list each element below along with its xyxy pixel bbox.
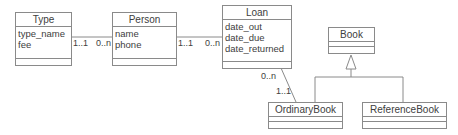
class-operations [329, 47, 374, 53]
class-operations [16, 59, 71, 65]
multiplicity-person-end: 0..n [96, 38, 111, 48]
attribute: phone [115, 39, 175, 50]
class-name: ReferenceBook [363, 103, 446, 117]
class-name: Loan [223, 6, 291, 20]
attribute: type_name [18, 28, 70, 39]
class-name: Book [329, 28, 374, 42]
class-attributes: name phone [113, 27, 176, 59]
multiplicity-loan-end: 0..n [205, 38, 220, 48]
attribute: date_returned [225, 43, 290, 54]
class-referencebook[interactable]: ReferenceBook [362, 102, 447, 129]
class-book[interactable]: Book [328, 27, 375, 54]
class-operations [269, 122, 342, 128]
association-loan-ordinarybook [281, 68, 296, 102]
attribute: fee [18, 39, 70, 50]
attribute: name [115, 28, 175, 39]
class-person[interactable]: Person name phone [112, 12, 177, 66]
class-attributes: date_out date_due date_returned [223, 20, 291, 62]
class-loan[interactable]: Loan date_out date_due date_returned [222, 5, 292, 69]
multiplicity-loan-start: 0..n [261, 71, 276, 81]
class-name: Person [113, 13, 176, 27]
class-operations [363, 122, 446, 128]
attribute: date_out [225, 21, 290, 32]
multiplicity-ordinarybook-end: 1..1 [276, 86, 291, 96]
class-attributes: type_name fee [16, 27, 71, 59]
class-name: Type [16, 13, 71, 27]
class-operations [113, 59, 176, 65]
multiplicity-type-end: 1..1 [73, 38, 88, 48]
generalization-arrowhead [346, 55, 356, 69]
class-name: OrdinaryBook [269, 103, 342, 117]
class-type[interactable]: Type type_name fee [15, 12, 72, 66]
attribute: date_due [225, 32, 290, 43]
multiplicity-person-loan-start: 1..1 [178, 38, 193, 48]
class-operations [223, 62, 291, 68]
class-ordinarybook[interactable]: OrdinaryBook [268, 102, 343, 129]
